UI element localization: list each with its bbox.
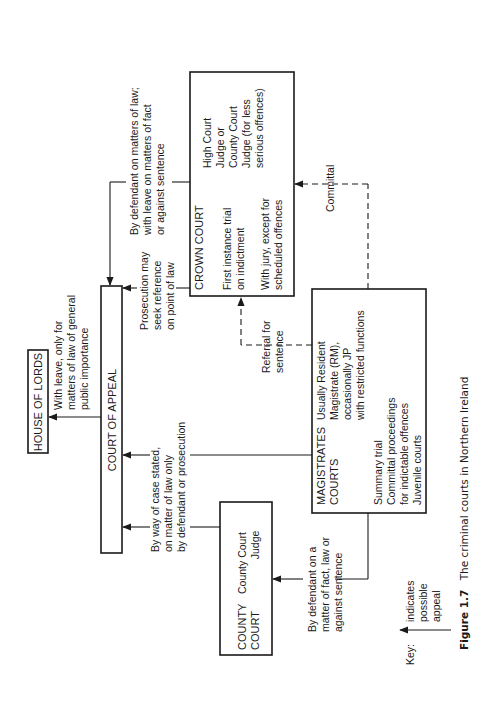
county-court-title: COUNTY: [236, 603, 248, 650]
crown-court-judge-line: Judge or: [214, 127, 226, 168]
magistrates-function-line: Committal proceedings: [385, 398, 397, 505]
edge-mag-to-county: By defendant on a matter of fact, law or…: [273, 513, 368, 632]
magistrates-judge-line: Magistrate (RM),: [328, 342, 340, 420]
crown-court-title: CROWN COURT: [193, 205, 205, 290]
edge-label-line: By way of case stated,: [149, 447, 161, 552]
key-meaning-line: possible: [417, 583, 429, 622]
edge-label-line: matter of fact, law or: [319, 536, 331, 632]
edge-label-line: public importance: [78, 328, 90, 410]
house-of-lords-node: HOUSE OF LORDS: [28, 350, 48, 453]
edge-mag-to-crown-committal: Committal: [295, 165, 368, 289]
county-court-title: COURT: [249, 611, 261, 650]
key-label: Key:: [404, 644, 416, 665]
edge-mag-to-crown-referral: Referral for sentence: [241, 298, 312, 373]
edge-label-line: By defendant on matters of law;: [128, 87, 140, 235]
magistrates-judge-line: with restricted functions: [354, 310, 366, 421]
magistrates-function-line: Juvenile courts: [411, 435, 423, 505]
caption-label: Figure 1.7: [458, 590, 470, 650]
crown-court-judge-line: High Court: [201, 118, 213, 168]
magistrates-function-line: Summary trial: [372, 440, 384, 505]
court-of-appeal-title: COURT OF APPEAL: [106, 369, 118, 471]
crown-court-line: With jury, except for: [259, 197, 271, 290]
crown-court-line: on indictment: [234, 227, 246, 290]
court-of-appeal-node: COURT OF APPEAL: [101, 286, 122, 553]
crown-court-judge-line: County Court: [227, 106, 239, 168]
edge-label-line: seek reference: [151, 260, 163, 330]
magistrates-title: MAGISTRATES: [315, 427, 327, 505]
legend-key: Key: indicates possible appeal: [400, 581, 451, 665]
crown-court-judge-line: serious offences): [253, 88, 265, 168]
edge-crown-to-coa-defendant: By defendant on matters of law; with lea…: [110, 87, 190, 285]
edge-crown-to-coa-prosecution: Prosecution may seek reference on point …: [123, 251, 190, 330]
edge-label-line: on matter of law only: [162, 454, 174, 552]
edge-label-line: Referral for: [260, 320, 272, 373]
figure-caption: Figure 1.7 The criminal courts in Northe…: [458, 377, 470, 650]
county-court-node: COUNTY COURT County Court Judge: [220, 502, 272, 655]
edge-label-line: or against sentence: [154, 143, 166, 235]
edge-label-line: by defendant or prosecution: [175, 422, 187, 552]
crown-court-judge-line: Judge (for less: [240, 99, 252, 168]
house-of-lords-title: HOUSE OF LORDS: [32, 353, 44, 451]
magistrates-judge-line: occasionally JP: [341, 348, 353, 420]
magistrates-function-line: for indictable offences: [398, 403, 410, 505]
edge-label-line: Prosecution may: [138, 251, 150, 330]
crown-court-line: First instance trial: [221, 208, 233, 290]
magistrates-judge-line: Usually Resident: [315, 341, 327, 420]
magistrates-title: COURTS: [328, 459, 340, 505]
edge-label-line: on point of law: [164, 262, 176, 330]
crown-court-node: CROWN COURT First instance trial on indi…: [190, 72, 294, 296]
edge-label-line: with leave on matters of fact: [141, 104, 153, 236]
edge-county-to-coa-case-stated: By way of case stated, on matter of law …: [123, 422, 220, 552]
key-meaning-line: appeal: [430, 590, 442, 622]
magistrates-courts-node: MAGISTRATES COURTS Usually Resident Magi…: [312, 289, 426, 513]
edge-label-line: Committal: [324, 165, 336, 212]
caption-text: The criminal courts in Northern Ireland: [458, 377, 470, 582]
edge-label-line: sentence: [273, 330, 285, 373]
edge-label-line: By defendant on a: [306, 547, 318, 632]
edge-coa-to-hol: With leave, only for matters of law of g…: [49, 295, 101, 417]
edge-label-line: With leave, only for: [52, 320, 64, 410]
edge-label-line: against sentence: [332, 552, 344, 632]
svg-text:Figure 1.7 The criminal: Figure 1.7 The criminal courts in Northe…: [458, 377, 470, 650]
key-meaning-line: indicates: [404, 581, 416, 622]
county-court-judge-line: County Court: [236, 532, 248, 594]
county-court-judge-line: Judge: [249, 531, 261, 560]
criminal-courts-diagram: HOUSE OF LORDS COURT OF APPEAL CROWN COU…: [0, 0, 495, 708]
crown-court-line: scheduled offences: [272, 200, 284, 290]
edge-label-line: matters of law of general: [65, 295, 77, 410]
